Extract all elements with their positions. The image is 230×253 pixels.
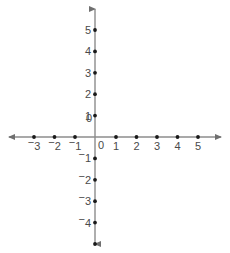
x-tick-label: 1 [113, 141, 119, 152]
minus-sign-glyph: − [78, 149, 84, 160]
y-tick-dot [93, 221, 97, 225]
x-tick-label: 3 [154, 141, 160, 152]
y-axis-zero-label: 0 [86, 113, 92, 124]
minus-sign-glyph: − [28, 137, 34, 148]
y-tick-dot [93, 92, 97, 96]
y-tick-dot [93, 199, 97, 203]
y-tick-dot [93, 242, 97, 246]
y-tick-dot [93, 71, 97, 75]
x-tick-label: 2 [133, 141, 139, 152]
x-tick-label: 5 [195, 141, 201, 152]
y-tick-label: −3 [78, 196, 91, 207]
y-tick-dot [93, 157, 97, 161]
coordinate-plane-figure: −3−2−112345 54321−1−2−3−4 0 0 [0, 0, 230, 253]
y-tick-label: −1 [78, 153, 91, 164]
y-tick-label: 3 [85, 67, 91, 78]
y-tick-label: 4 [85, 46, 91, 57]
x-tick-label: −3 [28, 141, 41, 152]
x-tick-dot [135, 135, 139, 139]
y-tick-label: −4 [78, 217, 91, 228]
minus-sign-glyph: − [69, 137, 75, 148]
y-tick-dot [93, 28, 97, 32]
x-axis-zero-label: 0 [98, 140, 104, 151]
x-tick-dot [114, 135, 118, 139]
y-tick-dot [93, 178, 97, 182]
x-tick-label: 4 [174, 141, 180, 152]
coordinate-axes-svg [0, 0, 230, 253]
y-tick-label: 5 [85, 25, 91, 36]
x-tick-label: −2 [48, 141, 61, 152]
y-tick-dot [93, 50, 97, 54]
minus-sign-glyph: − [48, 137, 54, 148]
minus-sign-glyph: − [78, 213, 84, 224]
x-tick-dot [155, 135, 159, 139]
minus-sign-glyph: − [78, 192, 84, 203]
y-tick-label: −2 [78, 174, 91, 185]
y-tick-label: 2 [85, 89, 91, 100]
x-tick-dot [176, 135, 180, 139]
x-tick-dot [196, 135, 200, 139]
y-tick-dot [93, 114, 97, 118]
minus-sign-glyph: − [78, 170, 84, 181]
